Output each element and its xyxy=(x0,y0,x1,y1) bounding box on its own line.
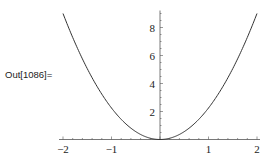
y-tick-label: 4 xyxy=(150,78,156,90)
y-tick-label: 6 xyxy=(150,50,156,62)
x-tick-label: 2 xyxy=(254,143,260,155)
tick-labels: −2−1122468 xyxy=(57,22,260,156)
x-tick-label: −2 xyxy=(57,143,69,155)
x-tick-label: −1 xyxy=(106,143,118,155)
y-tick-label: 8 xyxy=(150,22,156,34)
parabola-plot: −2−1122468 xyxy=(0,0,271,161)
x-tick-label: 1 xyxy=(206,143,212,155)
y-tick-label: 2 xyxy=(150,106,156,118)
